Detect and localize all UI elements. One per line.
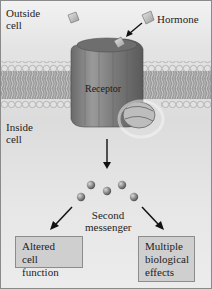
- outside-cell-label-line1: Outside: [6, 7, 40, 19]
- inside-cell-label-line2: cell: [6, 133, 33, 145]
- outcome-box-multiple-biological-effects: Multiple biological effects: [138, 236, 195, 282]
- second-messenger-label-line2: messenger: [85, 221, 131, 233]
- hormone-molecule-label: [142, 11, 154, 24]
- diagram-root: Outside cell Hormone Receptor Inside cel…: [0, 0, 212, 289]
- second-messenger-molecules: [77, 181, 138, 201]
- second-messenger-label: Second messenger: [85, 209, 131, 233]
- inside-cell-label-line1: Inside: [6, 121, 33, 133]
- outcome-text-line: Altered: [22, 240, 76, 253]
- outcome-text-line: biological: [145, 253, 188, 266]
- receptor-label: Receptor: [85, 83, 121, 95]
- hormone-binding-arrow: [126, 23, 142, 37]
- effect-arrow-left: [50, 207, 72, 230]
- hormone-label: Hormone: [157, 13, 199, 25]
- outcome-box-altered-cell-function: Altered cell function: [15, 236, 83, 268]
- signal-arrow-down: [103, 139, 111, 169]
- effect-arrow-right: [142, 207, 164, 230]
- inside-cell-label: Inside cell: [6, 121, 33, 145]
- second-messenger-label-line1: Second: [85, 209, 131, 221]
- outcome-text-line: Multiple: [145, 240, 188, 253]
- hormone-molecule-free: [68, 12, 79, 23]
- outcome-text-line: cell function: [22, 253, 76, 279]
- outcome-text-line: effects: [145, 266, 188, 279]
- outside-cell-label-line2: cell: [6, 19, 40, 31]
- outside-cell-label: Outside cell: [6, 7, 40, 31]
